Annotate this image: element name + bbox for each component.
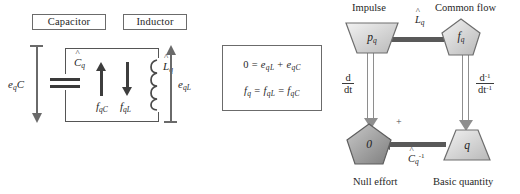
inductor-flow-arrow-down [122, 62, 133, 96]
capacitor-plate-bottom [50, 85, 80, 88]
capacitor-flow-subscript: qC [99, 105, 108, 114]
equation-line-2: fq = fqL = fqC [244, 85, 300, 98]
inductor-effort-subscript: qL [183, 83, 191, 92]
eq1-plus: + [277, 59, 283, 70]
eq2-rhs-sub: qC [291, 89, 300, 98]
corner-label-null-effort: Null effort [353, 176, 397, 187]
edge-label-derivative: d dt [342, 72, 354, 95]
node-basic-quantity-label: q [464, 139, 470, 151]
derivative-numerator: d [342, 72, 354, 84]
edge-label-inductance: ^Lq [415, 14, 425, 27]
inductor-flow-subscript: qL [123, 105, 131, 114]
eq2-equals-1: = [254, 85, 260, 96]
equation-box: 0 = eqL + eqC fq = fqL = fqC [222, 45, 322, 111]
node-common-flow-label: fq [458, 30, 465, 44]
integral-edge-arrow-right [459, 54, 473, 134]
node-basic-quantity: q [442, 128, 492, 162]
capacitor-flow-arrow-up [96, 62, 107, 96]
lc-circuit-diagram: Capacitor Inductor ^Cq ^Lq fqC fqL eqC e… [0, 0, 205, 194]
hat-accent-capacitance: ^ [76, 49, 80, 58]
inductor-flow-symbol: fqL [120, 100, 131, 114]
node-common-flow: fq [440, 17, 482, 57]
edge-label-capacitance-inverse: ^Cq-1 [408, 152, 425, 166]
corner-label-common-flow: Common flow [435, 2, 496, 13]
integral-numerator: d-1 [476, 72, 494, 84]
inductor-label-box: Inductor [123, 14, 187, 30]
eq1-term2-sub: qC [291, 63, 300, 72]
capacitance-symbol: ^Cq [74, 56, 85, 70]
node-null-effort-label: 0 [366, 138, 372, 150]
capacitor-plate-top [50, 78, 80, 81]
corner-label-basic-quantity: Basic quantity [433, 176, 493, 187]
eq1-equals: = [252, 59, 258, 70]
edge-label-integral: d-1 dt-1 [476, 72, 494, 95]
capacitance-subscript: q [81, 61, 85, 70]
eq2-equals-2: = [278, 85, 284, 96]
eq1-lhs: 0 [243, 59, 249, 70]
inductor-effort-symbol: eqL [178, 78, 191, 92]
integral-denominator: dt-1 [476, 84, 494, 95]
capacitor-effort-symbol: eqC [8, 78, 24, 92]
node-null-effort: 0 [345, 122, 393, 166]
plus-sign-marker: + [396, 116, 402, 127]
inductor-effort-arrow [164, 45, 177, 123]
equation-line-1: 0 = eqL + eqC [243, 59, 301, 72]
tetrahedron-of-state-diagram: Impulse Common flow Null effort Basic qu… [320, 0, 520, 194]
eq2-mid-sub: qL [267, 89, 276, 98]
eq1-term1-sub: qL [266, 63, 275, 72]
capacitor-effort-tail: C [17, 78, 24, 90]
corner-label-impulse: Impulse [352, 2, 386, 13]
derivative-edge-arrow-left [364, 52, 378, 132]
node-impulse: pq [344, 20, 400, 56]
derivative-denominator: dt [342, 84, 354, 95]
eq2-lhs-sub: q [247, 89, 251, 98]
capacitor-flow-symbol: fqC [96, 100, 108, 114]
capacitor-label-box: Capacitor [32, 14, 106, 30]
node-impulse-label: pq [367, 31, 377, 45]
capacitor-effort-arrow [30, 45, 43, 123]
